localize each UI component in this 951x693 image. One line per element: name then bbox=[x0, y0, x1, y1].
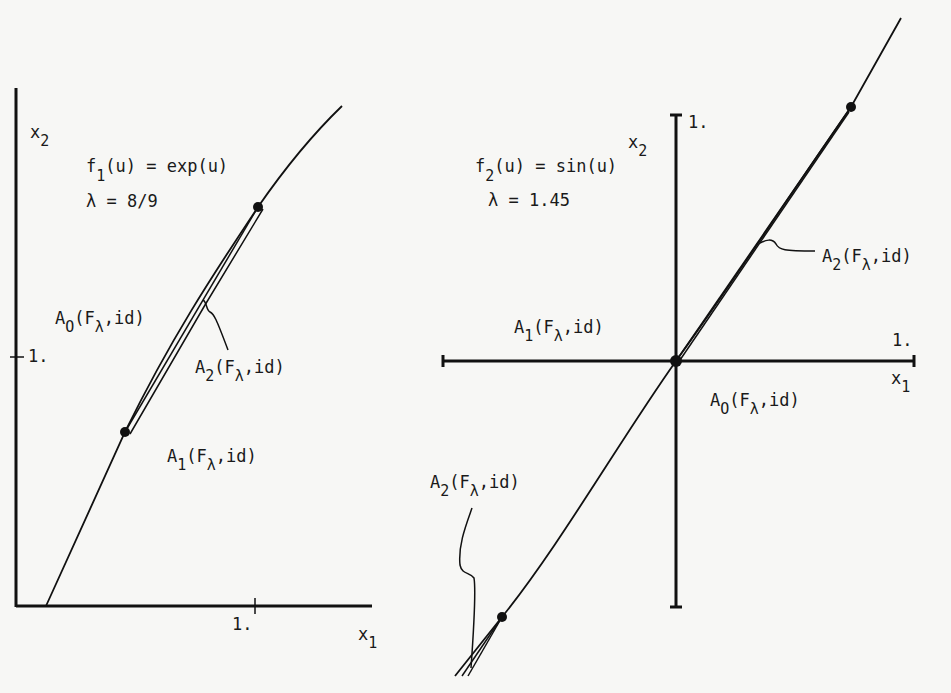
right-lower-inner-chord bbox=[462, 620, 500, 676]
right-upper-a2-label: A2(Fλ,id) bbox=[822, 246, 912, 274]
left-region-a0-label: AO(Fλ,id) bbox=[55, 308, 145, 336]
right-region-a0-label: AO(Fλ,id) bbox=[710, 390, 800, 418]
diagram-canvas: x2 f1(u) = exp(u) λ = 8/9 1. 1. x1 AO(Fλ… bbox=[0, 0, 951, 693]
left-lambda-label: λ = 8/9 bbox=[86, 191, 158, 211]
right-function-label: f2(u) = sin(u) bbox=[475, 156, 617, 185]
left-lower-fixed-point bbox=[120, 427, 130, 437]
right-y-axis-label: x2 bbox=[628, 132, 647, 160]
left-x-axis-label: x1 bbox=[358, 624, 377, 652]
right-x-tick-label: 1. bbox=[892, 330, 912, 350]
left-y-tick-label: 1. bbox=[28, 346, 48, 366]
left-function-curve bbox=[46, 106, 342, 606]
left-x-tick-label: 1. bbox=[232, 614, 252, 634]
right-y-tick-label: 1. bbox=[688, 112, 708, 132]
left-chord-line bbox=[125, 207, 258, 432]
right-x-axis-label: x1 bbox=[891, 368, 910, 396]
left-inner-chord bbox=[130, 209, 263, 434]
left-function-label: f1(u) = exp(u) bbox=[86, 156, 228, 185]
right-panel: x2 1. f2(u) = sin(u) λ = 1.45 1. x1 A2(F… bbox=[430, 18, 914, 676]
right-region-a1-label: A1(Fλ,id) bbox=[514, 317, 604, 345]
right-lower-a2-leader bbox=[460, 508, 475, 668]
left-a2-leader bbox=[203, 300, 228, 350]
right-chord-line bbox=[676, 107, 851, 361]
right-lower-fixed-point bbox=[497, 612, 507, 622]
right-upper-fixed-point bbox=[846, 102, 856, 112]
right-origin-fixed-point bbox=[670, 355, 682, 367]
right-lower-a2-label: A2(Fλ,id) bbox=[430, 472, 520, 500]
right-function-curve bbox=[455, 18, 901, 676]
right-inner-chord bbox=[680, 112, 849, 360]
right-lambda-label: λ = 1.45 bbox=[488, 190, 570, 210]
left-region-a1-label: A1(Fλ,id) bbox=[167, 446, 257, 474]
left-y-axis-label: x2 bbox=[30, 122, 49, 150]
left-region-a2-label: A2(Fλ,id) bbox=[195, 357, 285, 385]
left-upper-fixed-point bbox=[253, 202, 263, 212]
left-panel: x2 f1(u) = exp(u) λ = 8/9 1. 1. x1 AO(Fλ… bbox=[10, 88, 377, 652]
right-upper-a2-leader bbox=[760, 240, 815, 251]
